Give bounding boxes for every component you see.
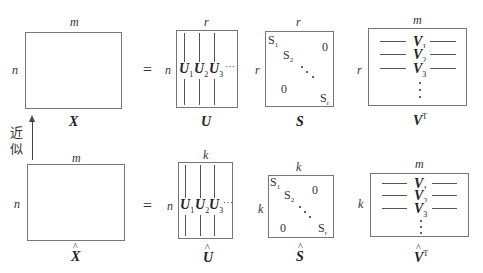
s-upper-zero: 0 <box>322 41 328 53</box>
arrow-up-icon <box>29 115 35 122</box>
vt-row-line <box>430 41 456 42</box>
s-diagonal-dot <box>306 71 308 73</box>
vt-hat-row-line <box>382 208 407 209</box>
s-hat-upper-zero: 0 <box>312 184 318 196</box>
approx-label-1: 近 <box>10 126 23 141</box>
u-hat-column-3: U3 <box>209 198 223 215</box>
vt-hat-row-3: V3 <box>414 202 427 219</box>
s-entry-sr: Sr <box>320 92 329 107</box>
u-column-1: U1 <box>179 62 193 79</box>
vt-row-line <box>380 41 406 42</box>
s-hat-diagonal-dot <box>309 216 311 218</box>
vt-hat-row-line <box>382 183 407 184</box>
vt-hat-vertical-dot <box>420 226 422 228</box>
vt-name: VT <box>413 113 427 128</box>
x-hat-height-label: n <box>14 198 20 210</box>
s-hat-entry-s1: S1 <box>270 176 280 191</box>
matrix-x-hat <box>27 164 125 241</box>
u-hat-column-1: U1 <box>180 198 194 215</box>
arrow-shaft <box>32 120 33 160</box>
s-entry-s1: S1 <box>268 34 278 49</box>
u-height-label: n <box>165 64 171 76</box>
vt-hat-vertical-dot <box>420 220 422 222</box>
vt-hat-row-line <box>382 195 407 196</box>
vt-row-line <box>380 54 406 55</box>
s-hat-entry-s2: S2 <box>284 189 294 204</box>
s-hat-width-label: k <box>296 161 301 173</box>
u-column-2: U2 <box>194 62 208 79</box>
u-hat-ellipsis: ··· <box>223 198 233 208</box>
vt-row-3: V3 <box>413 62 426 79</box>
vt-hat-row-line <box>432 208 457 209</box>
u-hat-name: U <box>203 251 213 265</box>
vt-hat-name: VT <box>414 250 428 265</box>
s-hat-name: S <box>296 250 304 264</box>
s-hat-lower-zero: 0 <box>280 222 286 234</box>
x-width-label: m <box>70 16 79 28</box>
u-hat-height-label: n <box>167 200 173 212</box>
vt-vertical-dot <box>419 96 421 98</box>
vt-hat-vertical-dot <box>420 232 422 234</box>
vt-vertical-dot <box>419 82 421 84</box>
vt-hat-row-line <box>432 183 457 184</box>
s-width-label: r <box>296 16 301 28</box>
s-hat-diagonal-dot <box>299 206 301 208</box>
x-name: X <box>69 115 78 129</box>
approx-label-2: 似 <box>10 142 23 157</box>
vt-vertical-dot <box>419 89 421 91</box>
vt-width-label: m <box>413 14 422 26</box>
s-entry-s2: S2 <box>283 49 293 64</box>
x-hat-width-label: m <box>72 152 81 164</box>
vt-row-line <box>380 68 406 69</box>
equals-sign-bottom: = <box>143 198 152 214</box>
vt-height-label: r <box>357 64 362 76</box>
u-width-label: r <box>204 16 209 28</box>
vt-row-line <box>430 54 456 55</box>
x-height-label: n <box>12 64 18 76</box>
vt-hat-row-line <box>432 195 457 196</box>
equals-sign-top: = <box>143 62 152 78</box>
s-lower-zero: 0 <box>281 83 287 95</box>
x-hat-name: X <box>71 250 80 264</box>
s-hat-diagonal-dot <box>304 211 306 213</box>
u-hat-column-2: U2 <box>195 198 209 215</box>
u-column-3: U3 <box>209 62 223 79</box>
matrix-x <box>25 32 122 109</box>
s-height-label: r <box>255 64 260 76</box>
vt-hat-height-label: k <box>358 198 363 210</box>
u-name: U <box>201 115 211 129</box>
s-name: S <box>296 115 304 129</box>
s-hat-height-label: k <box>258 203 263 215</box>
u-hat-width-label: k <box>203 149 208 161</box>
u-ellipsis: ··· <box>225 62 235 72</box>
s-diagonal-dot <box>301 66 303 68</box>
s-hat-entry-sr: Sr <box>318 222 327 237</box>
vt-hat-width-label: m <box>415 158 424 170</box>
vt-row-line <box>430 68 456 69</box>
s-diagonal-dot <box>312 76 314 78</box>
